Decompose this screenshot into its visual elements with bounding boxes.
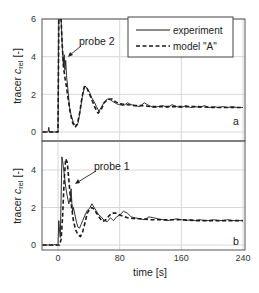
legend: experiment model "A" <box>128 17 233 57</box>
x-tick-labels: 080160240 <box>55 253 250 263</box>
y-tick-label: 0 <box>31 240 36 250</box>
y-tick-label: 4 <box>31 165 36 175</box>
grid-lines-b <box>42 141 245 250</box>
chart-figure: 0246 a probe 2 experiment model "A" 024 … <box>0 0 259 293</box>
y-axis-title-a: tracer crel [-] <box>11 48 25 104</box>
annotation-probe-1: probe 1 <box>94 160 130 172</box>
x-axis-title: time [s] <box>133 266 167 278</box>
y-tick-label: 2 <box>31 203 36 213</box>
panel-letter-b: b <box>233 235 239 247</box>
annotation-probe-2: probe 2 <box>79 35 115 47</box>
x-tick-label: 160 <box>174 253 189 263</box>
x-tick-label: 0 <box>55 253 60 263</box>
y-tick-label: 0 <box>31 127 36 137</box>
y-axis-title-text: tracer <box>11 194 23 224</box>
series-model-line <box>43 159 243 245</box>
chart-svg: 0246 a probe 2 experiment model "A" 024 … <box>0 0 259 293</box>
y-axis-title-text: tracer <box>11 74 23 104</box>
panel-b: 024 b probe 1 <box>31 141 245 250</box>
arrow-probe-1 <box>75 171 96 184</box>
panel-a: 0246 a probe 2 experiment model "A" <box>31 14 245 141</box>
legend-label-model: model "A" <box>173 41 217 52</box>
panel-letter-a: a <box>233 115 239 127</box>
x-tick-label: 80 <box>115 253 125 263</box>
y-tick-labels-a: 0246 <box>31 14 36 137</box>
arrow-probe-2 <box>68 46 81 57</box>
y-tick-label: 4 <box>31 52 36 62</box>
y-axis-title-unit: [-] <box>11 168 23 180</box>
legend-label-experiment: experiment <box>173 25 223 36</box>
x-tick-label: 240 <box>235 253 250 263</box>
y-axis-title-unit: [-] <box>11 48 23 60</box>
y-tick-label: 6 <box>31 14 36 24</box>
y-axis-title-b: tracer crel [-] <box>11 168 25 224</box>
plot-frame-b <box>42 141 245 250</box>
y-tick-labels-b: 024 <box>31 165 36 250</box>
y-tick-label: 2 <box>31 90 36 100</box>
